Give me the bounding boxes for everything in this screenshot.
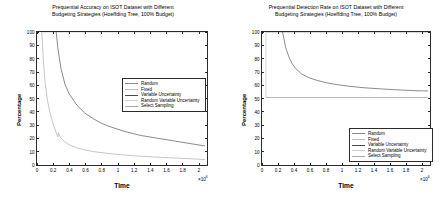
chart-title-line-1: Prequential Detection Rate on ISOT Datas… [231,4,441,11]
y-tick-mark [428,165,430,166]
y-tick-mark [205,125,207,126]
x-tick-mark [166,32,167,34]
y-tick-mark [262,138,264,139]
y-tick-label: 30 [254,123,259,128]
y-tick-mark [262,125,264,126]
y-tick-mark [428,111,430,112]
x-tick-mark [374,163,375,165]
x-tick-mark [101,163,102,165]
y-tick-label: 70 [29,69,34,74]
x-tick-mark [294,163,295,165]
x-tick-mark [326,163,327,165]
x-tick-label: 1.4 [371,168,377,173]
y-tick-label: 100 [252,30,260,35]
x-tick-mark [134,163,135,165]
x-tick-mark [150,163,151,165]
x-tick-label: 0.4 [291,168,297,173]
x-tick-mark [37,163,38,165]
x-tick-mark [310,163,311,165]
x-tick-mark [182,32,183,34]
exponent-power: 6 [428,175,430,179]
chart-title-line-2: Budgeting Strategies (Hoeffding Tree, 10… [231,11,441,18]
y-tick-label: 70 [254,69,259,74]
legend-swatch-icon [352,156,365,157]
y-tick-mark [262,98,264,99]
y-tick-mark [428,32,430,33]
y-tick-mark [205,32,207,33]
x-tick-label: 0.8 [323,168,329,173]
x-tick-mark [199,32,200,34]
y-tick-label: 10 [29,149,34,154]
y-tick-mark [37,72,39,73]
x-tick-mark [118,163,119,165]
y-tick-mark [37,125,39,126]
y-tick-mark [262,111,264,112]
y-tick-mark [205,138,207,139]
x-tick-label: 1.2 [355,168,361,173]
y-tick-mark [205,72,207,73]
x-tick-mark [358,163,359,165]
x-tick-mark [150,32,151,34]
legend-swatch-icon [125,89,138,90]
x-tick-mark [53,163,54,165]
y-tick-mark [37,58,39,59]
x-tick-mark [342,32,343,34]
x-tick-label: 2 [421,168,424,173]
legend-label: Select Sampling [368,153,401,159]
legend-item: Select Sampling [125,103,202,109]
x-tick-mark [182,163,183,165]
figure-prequential-detection-rate: Prequential Detection Rate on ISOT Datas… [223,0,445,203]
x-tick-label: 0.6 [82,168,88,173]
x-tick-mark [37,32,38,34]
x-tick-label: 2 [198,168,201,173]
x-tick-mark [134,32,135,34]
legend-label: Select Sampling [141,103,174,109]
legend-swatch-icon [352,150,365,151]
x-tick-mark [278,32,279,34]
y-tick-label: 10 [254,149,259,154]
y-tick-mark [428,72,430,73]
y-tick-mark [262,85,264,86]
y-tick-label: 90 [254,43,259,48]
y-tick-label: 40 [254,109,259,114]
chart-title-line-1: Prequential Accuracy on ISOT Dataset wit… [8,4,218,11]
x-tick-mark [326,32,327,34]
y-tick-label: 30 [29,123,34,128]
x-tick-label: 1 [117,168,120,173]
y-tick-mark [428,85,430,86]
chart-title: Prequential Accuracy on ISOT Dataset wit… [8,4,218,18]
y-tick-mark [37,98,39,99]
y-tick-mark [205,58,207,59]
y-tick-mark [262,45,264,46]
y-tick-mark [262,58,264,59]
legend-swatch-icon [352,139,365,140]
x-axis-label: Time [338,182,353,189]
x-tick-mark [390,32,391,34]
y-tick-label: 80 [254,56,259,61]
x-tick-label: 0.8 [99,168,105,173]
x-tick-mark [390,163,391,165]
exponent-power: 6 [206,175,208,179]
y-axis-label: Percentage [16,94,22,126]
y-tick-mark [428,98,430,99]
x-tick-mark [118,32,119,34]
x-tick-label: 0 [36,168,39,173]
x-tick-mark [374,32,375,34]
y-tick-label: 0 [32,163,35,168]
y-tick-label: 0 [257,163,260,168]
y-axis-label: Percentage [241,94,247,126]
x-tick-label: 0.2 [275,168,281,173]
x-tick-label: 1 [341,168,344,173]
x-tick-mark [199,163,200,165]
x-tick-mark [422,163,423,165]
chart-title-line-2: Budgeting Strategies (Hoeffding Tree, 10… [8,11,218,18]
x-tick-mark [278,163,279,165]
x-tick-label: 1.2 [131,168,137,173]
x-tick-mark [294,32,295,34]
x-tick-label: 1.4 [147,168,153,173]
x-tick-mark [406,32,407,34]
y-tick-mark [205,151,207,152]
series-line [283,32,428,91]
figure-prequential-accuracy: Prequential Accuracy on ISOT Dataset wit… [0,0,222,203]
x-tick-label: 1.8 [403,168,409,173]
